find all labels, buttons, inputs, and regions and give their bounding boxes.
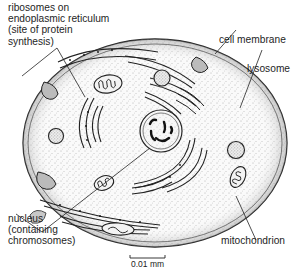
nucleus xyxy=(140,110,182,152)
label-nucleus: nucleus (containing chromosomes) xyxy=(8,213,75,247)
label-lysosome: lysosome xyxy=(247,63,290,74)
label-ribosomes: ribosomes on endoplasmic reticulum (site… xyxy=(8,2,109,47)
label-mitochondrion: mitochondrion xyxy=(221,235,285,246)
scale-bar xyxy=(130,255,165,258)
scale-bar-label: 0.01 mm xyxy=(131,259,164,269)
label-cell-membrane: cell membrane xyxy=(219,34,286,45)
